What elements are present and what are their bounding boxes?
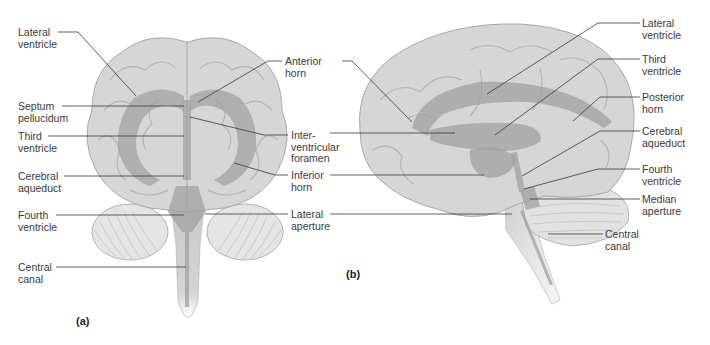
caption-panel-a: (a) [76,315,89,327]
label-third-ventricle-b: Third ventricle [642,54,681,77]
label-fourth-ventricle-b: Fourth ventricle [642,164,681,187]
caption-panel-b: (b) [346,268,360,280]
brain-illustrations [0,0,710,345]
label-posterior-horn-b: Posterior horn [642,92,684,115]
label-lateral-ventricle-b: Lateral ventricle [642,18,681,41]
ventricles-figure: Lateral ventricle Septum pellucidum Thir… [0,0,710,345]
label-central-canal-a: Central canal [18,262,52,285]
label-median-aperture-b: Median aperture [642,194,681,217]
panel-a-brain [87,38,287,318]
label-anterior-horn-a: Anterior horn [285,56,322,79]
label-lateral-ventricle-a: Lateral ventricle [18,27,57,50]
label-third-ventricle-a: Third ventricle [18,131,57,154]
label-fourth-ventricle-a: Fourth ventricle [18,210,57,233]
panel-b-brain [360,24,635,304]
label-cerebral-aqueduct-a: Cerebral aqueduct [18,171,61,194]
label-interventricular-foramen-a: Inter- ventricular foramen [291,130,339,165]
label-cerebral-aqueduct-b: Cerebral aqueduct [642,126,685,149]
label-central-canal-b: Central canal [605,229,639,252]
label-septum-pellucidum-a: Septum pellucidum [18,101,68,124]
label-inferior-horn-a: Inferior horn [291,170,324,193]
label-lateral-aperture-a: Lateral aperture [291,209,330,232]
